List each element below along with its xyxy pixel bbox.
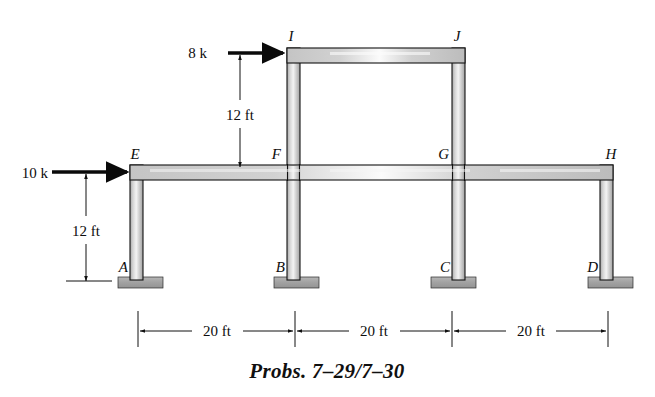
column-A-E [130,165,143,280]
frame-members [130,48,613,280]
joint-label-J: J [454,28,462,44]
dim-bay1-label: 20 ft [203,323,232,339]
beam-lower-sheen-3 [500,169,600,172]
column-B-F-I [287,48,300,280]
dim-upper-12ft-group: 12 ft [226,55,255,167]
dim-upper-12ft-label: 12 ft [226,107,255,123]
figure-caption: Probs. 7–29/7–30 [248,359,405,383]
joint-label-F: F [271,146,282,162]
beam-lower-sheen-2 [330,169,470,172]
load-8k-group: 8 k [188,45,283,61]
joint-label-E: E [129,146,139,162]
joint-label-B: B [276,259,285,275]
supports-group [118,277,633,288]
joint-F-column-overlay [287,166,300,179]
beam-I-J [287,48,465,63]
beam-E-H [130,165,613,180]
joint-label-A: A [118,259,129,275]
joint-label-I: I [288,28,295,44]
joint-label-G: G [438,146,449,162]
joint-label-H: H [605,146,618,162]
joint-G-column-overlay [452,166,465,179]
load-10k-group: 10 k [22,165,127,181]
dim-bay2-label: 20 ft [360,323,389,339]
frame-diagram: E F G H I J A B C D 8 k 10 k 12 ft 12 ft [0,0,655,397]
beam-lower-sheen [150,169,300,172]
beam-upper-sheen [330,52,430,55]
dim-bay3-label: 20 ft [517,323,546,339]
dim-lower-12ft-group: 12 ft [66,174,112,281]
joint-label-D: D [586,259,598,275]
column-D-H [600,165,613,280]
load-10k-label: 10 k [22,165,49,181]
dim-lower-12ft-label: 12 ft [72,223,101,239]
load-8k-label: 8 k [188,45,207,61]
dimension-chain: 20 ft 20 ft 20 ft [138,311,608,347]
joint-label-C: C [440,259,451,275]
column-C-G-J [452,48,465,280]
joint-labels-group: E F G H I J A B C D [118,28,618,275]
